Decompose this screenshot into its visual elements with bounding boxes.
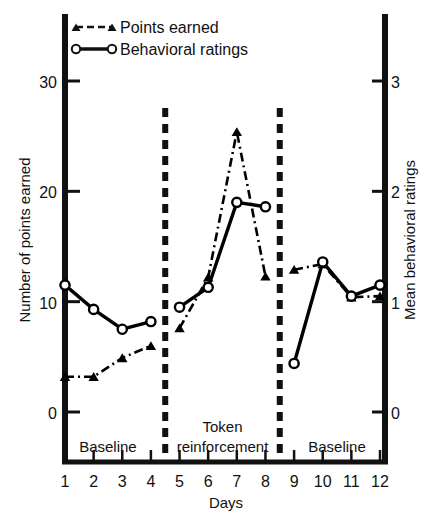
- data-point-circle: [89, 305, 98, 314]
- x-tick-label: 9: [290, 473, 299, 490]
- right-tick-label: 0: [391, 405, 400, 422]
- x-tick-label: 11: [343, 473, 360, 490]
- left-tick-label: 20: [39, 184, 57, 201]
- phase-label: reinforcement: [177, 438, 270, 455]
- circle-marker-icon: [108, 45, 116, 53]
- chart-canvas: 0102030 0123 123456789101112 BaselineTok…: [0, 0, 435, 515]
- right-tick-label: 3: [391, 74, 400, 91]
- chart-figure: 0102030 0123 123456789101112 BaselineTok…: [0, 0, 435, 515]
- circle-marker-icon: [72, 45, 80, 53]
- phase-label: Token: [202, 418, 242, 435]
- x-tick-label: 3: [118, 473, 127, 490]
- data-point-circle: [146, 317, 155, 326]
- data-point-circle: [261, 202, 270, 211]
- y-axis-right-title: Mean behavioral ratings: [401, 160, 418, 320]
- x-tick-label: 8: [261, 473, 270, 490]
- left-tick-label: 30: [39, 74, 57, 91]
- data-point-circle: [232, 198, 241, 207]
- x-tick-label: 10: [314, 473, 332, 490]
- legend-label-behavioral-ratings: Behavioral ratings: [120, 41, 248, 58]
- data-point-circle: [375, 281, 384, 290]
- x-tick-label: 7: [232, 473, 241, 490]
- data-point-circle: [175, 303, 184, 312]
- data-point-circle: [118, 325, 127, 334]
- x-tick-label: 2: [89, 473, 98, 490]
- x-tick-label: 1: [61, 473, 70, 490]
- x-tick-label: 4: [146, 473, 155, 490]
- left-tick-label: 0: [48, 405, 57, 422]
- left-tick-label: 10: [39, 295, 57, 312]
- right-tick-label: 2: [391, 184, 400, 201]
- phase-label: Baseline: [308, 438, 366, 455]
- x-tick-label: 6: [204, 473, 213, 490]
- data-point-circle: [318, 257, 327, 266]
- y-axis-left-title: Number of points earned: [16, 157, 33, 322]
- x-tick-label: 5: [175, 473, 184, 490]
- data-point-circle: [60, 281, 69, 290]
- data-point-circle: [347, 292, 356, 301]
- x-axis-title: Days: [209, 494, 243, 511]
- legend-label-points-earned: Points earned: [120, 19, 219, 36]
- right-tick-label: 1: [391, 295, 400, 312]
- data-point-circle: [204, 283, 213, 292]
- x-tick-label: 12: [371, 473, 389, 490]
- phase-label: Baseline: [79, 438, 137, 455]
- data-point-circle: [289, 359, 298, 368]
